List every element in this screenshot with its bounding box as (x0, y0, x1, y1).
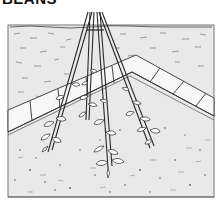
bean-teepee-illustration (0, 0, 221, 201)
